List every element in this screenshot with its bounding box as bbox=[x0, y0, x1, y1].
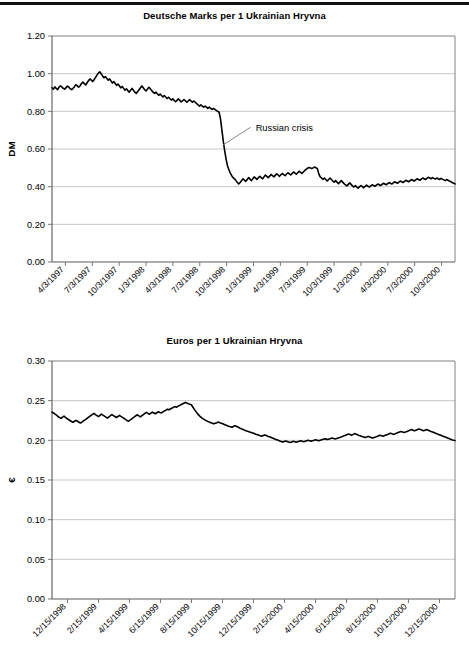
x-tick-label: 6/15/2000 bbox=[313, 601, 347, 635]
y-tick-label: 0.10 bbox=[27, 515, 45, 525]
y-tick-label: 0.20 bbox=[27, 220, 45, 230]
page-root: Deutsche Marks per 1 Ukrainian Hryvna 0.… bbox=[0, 0, 469, 655]
x-tick-label: 4/15/2000 bbox=[282, 601, 316, 635]
y-tick-label: 0.80 bbox=[27, 107, 45, 117]
y-tick-label: 0.25 bbox=[27, 396, 45, 406]
x-tick-label: 4/3/2000 bbox=[358, 264, 389, 295]
x-tick-label: 2/15/2000 bbox=[251, 601, 285, 635]
x-tick-label: 2/15/1999 bbox=[65, 601, 99, 635]
y-axis-title: DM bbox=[6, 141, 17, 156]
x-tick-label: 4/3/1999 bbox=[250, 264, 281, 295]
x-tick-label: 1/3/1998 bbox=[116, 264, 147, 295]
chart-plot-dm: 0.000.200.400.600.801.001.20DM4/3/19977/… bbox=[0, 10, 469, 335]
x-tick-label: 6/15/1999 bbox=[127, 601, 161, 635]
y-tick-label: 0.60 bbox=[27, 144, 45, 154]
x-tick-label: 12/15/1999 bbox=[216, 601, 254, 639]
y-tick-label: 0.20 bbox=[27, 436, 45, 446]
y-tick-label: 1.00 bbox=[27, 69, 45, 79]
y-tick-label: 0.00 bbox=[27, 257, 45, 267]
chart-figure-dm: Deutsche Marks per 1 Ukrainian Hryvna 0.… bbox=[0, 10, 469, 335]
y-tick-label: 0.00 bbox=[27, 594, 45, 604]
y-tick-label: 0.30 bbox=[27, 356, 45, 366]
x-tick-label: 4/3/1998 bbox=[143, 264, 174, 295]
annotation-russian-crisis: Russian crisis bbox=[256, 123, 314, 133]
y-axis-title: € bbox=[6, 477, 17, 483]
x-tick-label: 1/3/2000 bbox=[331, 264, 362, 295]
x-tick-label: 12/15/2000 bbox=[402, 601, 440, 639]
y-tick-label: 1.20 bbox=[27, 31, 45, 41]
x-tick-label: 4/15/1999 bbox=[96, 601, 130, 635]
x-tick-label: 4/3/1997 bbox=[35, 264, 66, 295]
top-horizontal-rule bbox=[0, 2, 469, 5]
y-tick-label: 0.40 bbox=[27, 182, 45, 192]
x-tick-label: 1/3/1999 bbox=[223, 264, 254, 295]
x-tick-label: 12/15/1998 bbox=[30, 601, 68, 639]
series-line bbox=[52, 402, 455, 442]
chart-plot-eur: 0.000.050.100.150.200.250.30€12/15/19982… bbox=[0, 335, 469, 655]
y-tick-label: 0.15 bbox=[27, 475, 45, 485]
series-line bbox=[52, 72, 455, 188]
chart-figure-eur: Euros per 1 Ukrainian Hryvna 0.000.050.1… bbox=[0, 335, 469, 655]
y-tick-label: 0.05 bbox=[27, 555, 45, 565]
